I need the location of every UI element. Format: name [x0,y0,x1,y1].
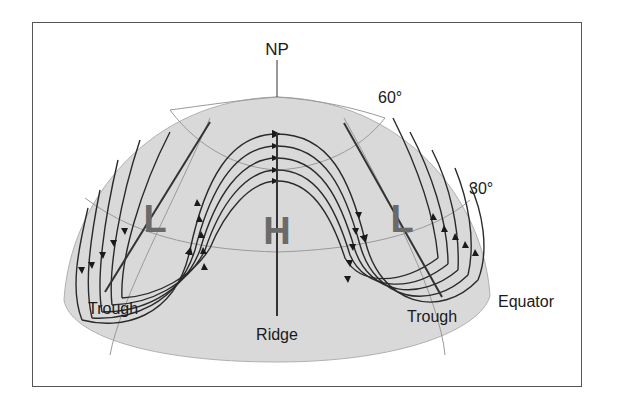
low-pressure-left: L [143,198,166,240]
low-pressure-right: L [390,198,413,240]
north-pole-label: NP [265,40,289,59]
equator-label: Equator [498,293,555,310]
trough-label-left: Trough [88,300,138,317]
ridge-label: Ridge [256,326,298,343]
trough-label-right: Trough [407,308,457,325]
high-pressure: H [263,210,290,252]
latitude-60-label: 60° [378,89,402,106]
latitude-30-label: 30° [469,180,493,197]
hemisphere-diagram: L H L NP 60° 30° Equator Trough Trough R… [0,0,617,411]
